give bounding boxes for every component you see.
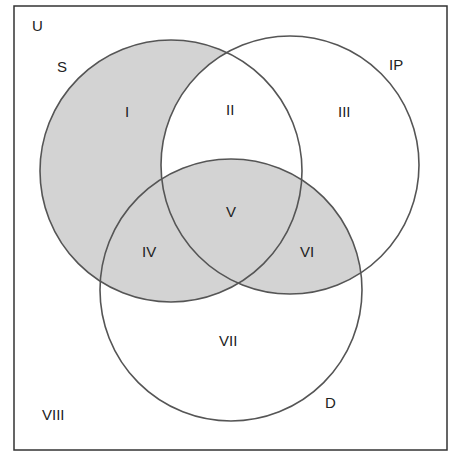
region-vi-label: VI: [300, 243, 314, 260]
region-i-label: I: [125, 103, 129, 120]
set-s-label: S: [57, 58, 67, 75]
region-iv-label: IV: [142, 243, 156, 260]
set-ip-label: IP: [389, 56, 403, 73]
region-vii-label: VII: [219, 332, 237, 349]
region-viii-label: VIII: [42, 406, 65, 423]
universe-label: U: [32, 17, 43, 34]
region-v-label: V: [226, 203, 236, 220]
venn-diagram: U S IP D I II III IV V VI VII VIII: [0, 0, 452, 465]
region-ii-label: II: [226, 101, 234, 118]
set-d-label: D: [325, 394, 336, 411]
region-iii-label: III: [338, 103, 351, 120]
